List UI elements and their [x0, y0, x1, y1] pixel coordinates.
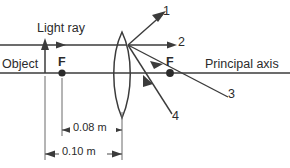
object-arrow-head: [41, 38, 49, 50]
principal-axis-label: Principal axis: [205, 58, 279, 71]
lens-ray-diagram: Light ray Object F F Principal axis 1 2 …: [0, 0, 290, 168]
ray-3-line: [128, 45, 228, 97]
focal-point-right-label: F: [166, 56, 174, 69]
incident-ray-arrowhead: [56, 42, 66, 49]
object-label: Object: [2, 58, 38, 71]
light-ray-label: Light ray: [37, 22, 85, 35]
ray-1-label: 1: [163, 5, 170, 18]
dimension-object-arrow-left: [45, 151, 55, 158]
focal-point-left-label: F: [58, 56, 66, 69]
ray-3-label: 3: [228, 88, 235, 101]
focal-point-left-marker: [58, 69, 65, 76]
ray-2-label: 2: [178, 36, 185, 49]
dimension-object-arrow-right: [112, 151, 122, 158]
ray-4-label: 4: [172, 110, 179, 123]
ray-2-arrowhead: [167, 42, 177, 49]
object-distance-dimension-label: 0.10 m: [62, 146, 96, 157]
focal-length-dimension-label: 0.08 m: [73, 122, 107, 133]
focal-point-right-marker: [166, 69, 174, 77]
